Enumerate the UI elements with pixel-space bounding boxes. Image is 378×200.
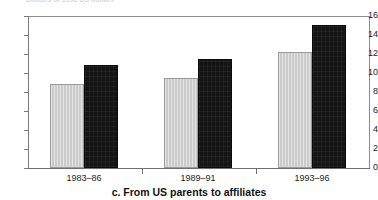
clipped-top-caption: Billions of 1992 US dollars bbox=[26, 0, 178, 6]
x-axis-label: 1983–86 bbox=[30, 173, 138, 183]
y-axis-tick bbox=[24, 168, 29, 169]
x-axis-label: 1989–91 bbox=[144, 173, 252, 183]
x-axis-tick bbox=[142, 169, 143, 174]
bar-chart: Billions of 1992 US dollars 024681012141… bbox=[0, 0, 378, 200]
bar-light-series-1 bbox=[164, 78, 198, 168]
bar-light-series-0 bbox=[50, 84, 84, 168]
bar-dark-series-0 bbox=[84, 65, 118, 168]
bar-light-series-2 bbox=[278, 52, 312, 168]
x-axis-line bbox=[28, 168, 370, 169]
bars-layer bbox=[28, 16, 370, 168]
x-axis-tick bbox=[256, 169, 257, 174]
chart-caption: c. From US parents to affiliates bbox=[0, 186, 378, 198]
bar-dark-series-2 bbox=[312, 25, 346, 168]
bar-dark-series-1 bbox=[198, 59, 232, 168]
x-axis-label: 1993–96 bbox=[258, 173, 366, 183]
